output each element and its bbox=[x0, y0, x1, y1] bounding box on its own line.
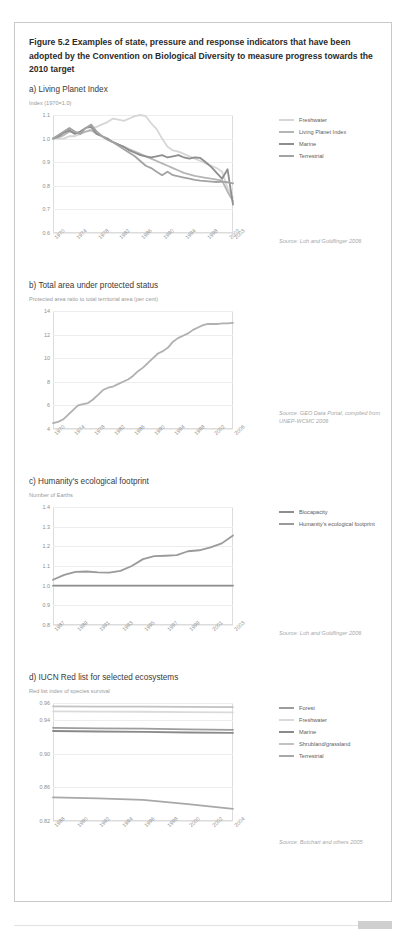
panel-d-source: Source: Butchart and others 2005 bbox=[279, 838, 389, 846]
document-page: Figure 5.2 Examples of state, pressure a… bbox=[0, 0, 406, 935]
y-axis-tick-label: 0.8 bbox=[43, 622, 51, 628]
y-axis-tick-label: 1.0 bbox=[43, 136, 51, 142]
y-axis-tick-label: 0.8 bbox=[43, 183, 51, 189]
x-axis-tick-label: 2003 bbox=[233, 620, 246, 633]
legend-swatch-icon bbox=[279, 755, 294, 757]
legend-label: Living Planet Index bbox=[299, 129, 346, 135]
y-axis-tick-label: 0.82 bbox=[40, 818, 51, 824]
y-axis-tick-label: 0.9 bbox=[43, 159, 51, 165]
y-axis-tick-label: 0.9 bbox=[43, 602, 51, 608]
legend-item: Freshwater bbox=[279, 717, 350, 723]
panel-a-legend: FreshwaterLiving Planet IndexMarineTerre… bbox=[279, 117, 346, 165]
panel-d-subtitle: Red list index of species survival bbox=[29, 688, 110, 694]
y-axis-tick-label: 1.1 bbox=[43, 112, 51, 118]
legend-label: Terrestrial bbox=[299, 153, 324, 159]
y-axis-tick-label: 1.1 bbox=[43, 563, 51, 569]
y-axis-tick-label: 10 bbox=[44, 355, 50, 361]
legend-label: Marine bbox=[299, 729, 316, 735]
legend-swatch-icon bbox=[279, 131, 294, 133]
series-line bbox=[53, 536, 233, 580]
legend-item: Freshwater bbox=[279, 117, 346, 123]
legend-label: Freshwater bbox=[299, 117, 327, 123]
legend-swatch-icon bbox=[279, 523, 294, 525]
panel-b-subtitle: Protected area ratio to total territoria… bbox=[29, 296, 158, 302]
legend-item: Marine bbox=[279, 141, 346, 147]
series-layer bbox=[53, 311, 233, 429]
panel-a-subtitle: Index (1970=1.0) bbox=[29, 100, 71, 106]
panel-a-title: a) Living Planet Index bbox=[29, 85, 108, 94]
series-line bbox=[53, 127, 233, 205]
legend-swatch-icon bbox=[279, 119, 294, 121]
x-axis-tick-label: 2004 bbox=[233, 816, 246, 829]
series-line bbox=[53, 731, 233, 733]
series-line bbox=[53, 711, 233, 712]
series-line bbox=[53, 130, 233, 201]
legend-item: Humanity's ecological footprint bbox=[279, 521, 375, 527]
series-line bbox=[53, 323, 233, 423]
panel-d-legend: ForestFreshwaterMarineShrubland/grasslan… bbox=[279, 705, 350, 765]
legend-item: Marine bbox=[279, 729, 350, 735]
legend-swatch-icon bbox=[279, 719, 294, 721]
y-axis-tick-label: 1.0 bbox=[43, 583, 51, 589]
panel-c-title: c) Humanity's ecological footprint bbox=[29, 477, 149, 486]
panel-b-title: b) Total area under protected status bbox=[29, 281, 158, 290]
legend-item: Terrestrial bbox=[279, 753, 350, 759]
y-axis-tick-label: 0.96 bbox=[40, 700, 51, 706]
legend-item: Shrubland/grassland bbox=[279, 741, 350, 747]
legend-item: Living Planet Index bbox=[279, 129, 346, 135]
y-axis-tick-label: 8 bbox=[47, 379, 50, 385]
footer-rule bbox=[14, 925, 392, 926]
y-axis-tick-label: 6 bbox=[47, 402, 50, 408]
legend-label: Marine bbox=[299, 141, 316, 147]
legend-label: Humanity's ecological footprint bbox=[299, 521, 375, 527]
y-axis-tick-label: 0.90 bbox=[40, 751, 51, 757]
series-layer bbox=[53, 115, 233, 233]
legend-swatch-icon bbox=[279, 511, 294, 513]
y-axis-tick-label: 0.6 bbox=[43, 230, 51, 236]
legend-label: Freshwater bbox=[299, 717, 327, 723]
panel-d-title: d) IUCN Red list for selected ecosystems bbox=[29, 673, 178, 682]
y-axis-tick-label: 4 bbox=[47, 426, 50, 432]
legend-item: Biocapacity bbox=[279, 509, 375, 515]
y-axis-tick-label: 0.86 bbox=[40, 784, 51, 790]
series-line bbox=[53, 797, 233, 808]
panel-d-plot: 0.820.860.900.940.9619881990199219941996… bbox=[53, 703, 233, 821]
series-line bbox=[53, 706, 233, 707]
panel-b-source: Source: GEO Data Portal, compiled from U… bbox=[279, 409, 389, 426]
panel-b-plot: 4681012141970197419781982198619901994199… bbox=[53, 311, 233, 429]
series-layer bbox=[53, 507, 233, 625]
legend-label: Terrestrial bbox=[299, 753, 324, 759]
legend-item: Forest bbox=[279, 705, 350, 711]
series-line bbox=[53, 124, 233, 183]
panel-c-legend: BiocapacityHumanity's ecological footpri… bbox=[279, 509, 375, 533]
legend-swatch-icon bbox=[279, 731, 294, 733]
y-axis-tick-label: 0.94 bbox=[40, 717, 51, 723]
y-axis-tick-label: 1.3 bbox=[43, 524, 51, 530]
legend-item: Terrestrial bbox=[279, 153, 346, 159]
x-axis-tick-label: 2006 bbox=[233, 424, 246, 437]
legend-swatch-icon bbox=[279, 155, 294, 157]
legend-label: Biocapacity bbox=[299, 509, 328, 515]
panel-a-source: Source: Loh and Goldfinger 2006 bbox=[279, 237, 389, 245]
panel-c-subtitle: Number of Earths bbox=[29, 492, 73, 498]
y-axis-tick-label: 0.7 bbox=[43, 206, 51, 212]
footer-page-marker bbox=[358, 921, 392, 929]
y-axis-tick-label: 1.2 bbox=[43, 543, 51, 549]
legend-swatch-icon bbox=[279, 143, 294, 145]
series-line bbox=[53, 728, 233, 730]
legend-swatch-icon bbox=[279, 707, 294, 709]
series-layer bbox=[53, 703, 233, 821]
legend-label: Shrubland/grassland bbox=[299, 741, 350, 747]
legend-label: Forest bbox=[299, 705, 315, 711]
panel-c-plot: 0.80.91.01.11.21.31.41987198919911993199… bbox=[53, 507, 233, 625]
figure-title: Figure 5.2 Examples of state, pressure a… bbox=[29, 36, 381, 77]
y-axis-tick-label: 1.4 bbox=[43, 504, 51, 510]
legend-swatch-icon bbox=[279, 743, 294, 745]
y-axis-tick-label: 12 bbox=[44, 332, 50, 338]
y-axis-tick-label: 14 bbox=[44, 308, 50, 314]
panel-a-plot: 0.60.70.80.91.01.11970197419781982198619… bbox=[53, 115, 233, 233]
figure-box: Figure 5.2 Examples of state, pressure a… bbox=[14, 22, 392, 902]
panel-c-source: Source: Loh and Goldfinger 2006 bbox=[279, 629, 389, 637]
